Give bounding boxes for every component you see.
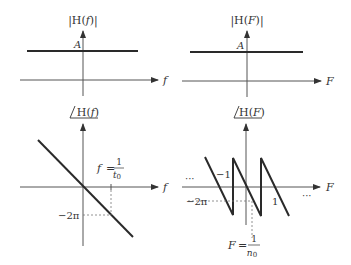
magnitude-discrete-ylabel: |H(F)|	[230, 14, 263, 28]
svg-text:=: =	[238, 239, 247, 252]
phase-continuous-ylabel: H(f)	[70, 106, 99, 119]
svg-text:1: 1	[116, 157, 122, 167]
x-axis-label: f	[162, 181, 169, 194]
tick-label-negative-one: −1	[216, 169, 231, 180]
svg-text:1: 1	[251, 234, 257, 244]
phase-discrete-ylabel: H(F)	[234, 106, 265, 119]
svg-text:t0: t0	[113, 170, 121, 181]
ellipsis-right: ···	[302, 190, 312, 201]
svg-text:f: f	[96, 162, 103, 175]
level-label: A	[236, 40, 244, 51]
magnitude-continuous-panel: |H(f)| f A	[20, 14, 169, 96]
svg-text:F: F	[227, 239, 236, 252]
frequency-marker-label: F = 1 n0	[227, 234, 260, 259]
level-label: A	[73, 39, 81, 50]
svg-text:H(F): H(F)	[239, 106, 265, 119]
x-axis-label: f	[162, 74, 169, 87]
frequency-response-diagram: |H(f)| f A |H(F)| F A H(f) f −2π	[0, 0, 351, 265]
minus-2pi-label: −2π	[186, 196, 208, 207]
svg-text:n0: n0	[247, 248, 257, 259]
ellipsis-left: ···	[185, 173, 195, 184]
x-axis-label: F	[325, 181, 334, 194]
x-axis-label: F	[325, 75, 334, 88]
frequency-marker-label: f = 1 t0	[96, 157, 124, 181]
phase-continuous-panel: H(f) f −2π f = 1 t0	[20, 106, 169, 246]
magnitude-discrete-panel: |H(F)| F A	[182, 14, 334, 97]
magnitude-continuous-ylabel: |H(f)|	[68, 14, 98, 28]
linear-phase-line	[38, 140, 133, 237]
tick-label-one: 1	[272, 196, 278, 207]
minus-2pi-label: −2π	[58, 210, 80, 221]
svg-text:H(f): H(f)	[77, 106, 99, 119]
phase-discrete-panel: H(F) F −2π −1 1 ··· ··· F = 1 n0	[182, 106, 334, 259]
